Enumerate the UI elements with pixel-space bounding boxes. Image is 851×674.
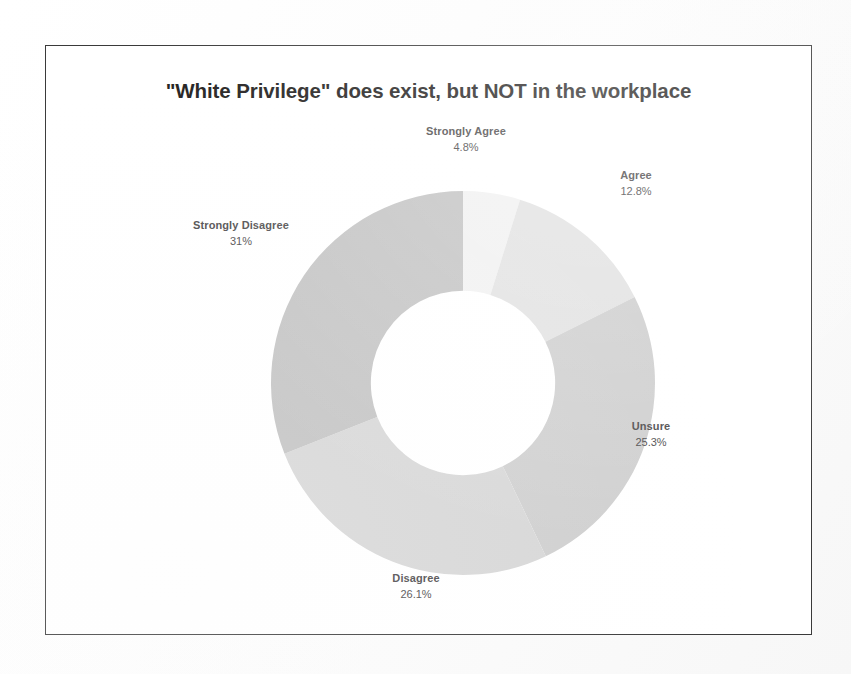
slice-label-percent: 31% [146,234,336,250]
slice-label-percent: 25.3% [591,435,711,451]
slice-label-unsure: Unsure 25.3% [591,419,711,450]
donut-slice-disagree [284,417,545,575]
slice-label-disagree: Disagree 26.1% [346,571,486,602]
donut-chart: Strongly Agree 4.8% Agree 12.8% Unsure 2… [46,46,813,636]
slice-label-name: Strongly Disagree [146,218,336,234]
slice-label-name: Disagree [346,571,486,587]
slice-label-percent: 4.8% [386,140,546,156]
slice-label-percent: 26.1% [346,587,486,603]
slice-label-name: Unsure [591,419,711,435]
slice-label-agree: Agree 12.8% [576,168,696,199]
slice-label-name: Strongly Agree [386,124,546,140]
slice-label-name: Agree [576,168,696,184]
slice-label-percent: 12.8% [576,184,696,200]
slice-label-strongly-disagree: Strongly Disagree 31% [146,218,336,249]
chart-frame: "White Privilege" does exist, but NOT in… [45,45,812,635]
slice-label-strongly-agree: Strongly Agree 4.8% [386,124,546,155]
